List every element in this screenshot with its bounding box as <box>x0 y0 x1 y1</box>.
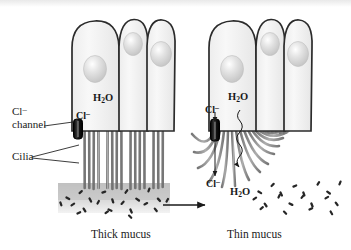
nucleus <box>288 42 309 67</box>
left-panel-caption: Thick mucus <box>91 228 151 241</box>
right-cl-channel <box>211 119 220 141</box>
cystic-fibrosis-mucus-diagram: Cl– channel Cilia H2O Cl– Cl– H2O Cl– H2… <box>0 0 351 250</box>
cl-channel-leader <box>44 122 73 126</box>
left-cilia-group <box>80 127 167 189</box>
nucleus <box>221 56 244 83</box>
left-cl-channel <box>74 119 83 139</box>
right-cell-3 <box>284 20 312 131</box>
right-h2o-bottom-label: H2O <box>230 186 250 199</box>
diagram-canvas <box>0 0 351 250</box>
nucleus <box>261 33 280 56</box>
cl-channel-label: Cl– channel <box>12 105 46 130</box>
cilia-leader <box>32 145 79 163</box>
right-cl-top-label: Cl– <box>205 104 219 115</box>
left-h2o-label: H2O <box>93 92 113 105</box>
right-bacteria-group <box>252 180 342 216</box>
cl-channel-label-line2: channel <box>12 118 46 130</box>
nucleus <box>124 33 143 56</box>
nucleus <box>84 56 107 83</box>
right-h2o-top-label: H2O <box>228 91 248 104</box>
cilia-label: Cilia <box>12 150 33 162</box>
left-cell-3 <box>147 20 175 131</box>
cl-channel-label-line1: Cl <box>12 105 22 117</box>
right-panel-caption: Thin mucus <box>227 228 282 241</box>
nucleus <box>151 42 172 67</box>
cl-channel-charge: – <box>22 104 26 114</box>
left-panel-group <box>32 19 175 219</box>
right-cl-bottom-label: Cl– <box>206 178 220 189</box>
left-cl-ion-label: Cl– <box>76 110 90 121</box>
